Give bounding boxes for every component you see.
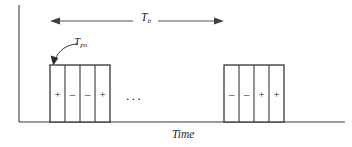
chip-sign: + xyxy=(269,89,284,100)
bit-duration-span-arrow xyxy=(50,17,224,24)
arrowhead-left xyxy=(50,17,60,24)
chip-sign: + xyxy=(95,89,110,100)
chip-sign: + xyxy=(50,89,65,100)
bit-duration-label: Tb xyxy=(138,12,154,24)
chip-duration-subscript: pn xyxy=(80,41,87,48)
chip-sign: – xyxy=(224,89,239,100)
chip-duration-label: Tpn xyxy=(74,36,87,47)
chip-duration-leader-arrow xyxy=(51,44,78,66)
bit-duration-subscript: b xyxy=(147,17,151,25)
x-axis-caption: Time xyxy=(172,129,194,141)
chip-sign: – xyxy=(65,89,80,100)
arrowhead-chip xyxy=(51,56,59,66)
arrowhead-right xyxy=(214,17,224,24)
chip-sign: + xyxy=(254,89,269,100)
pn-code-waveform-diagram: Tb Tpn + – – + – – + + ... Time xyxy=(0,0,352,147)
ellipsis-between-groups: ... xyxy=(126,88,143,104)
chip-sign: – xyxy=(80,89,95,100)
waveform-svg-canvas xyxy=(0,0,352,147)
chip-sign: – xyxy=(239,89,254,100)
